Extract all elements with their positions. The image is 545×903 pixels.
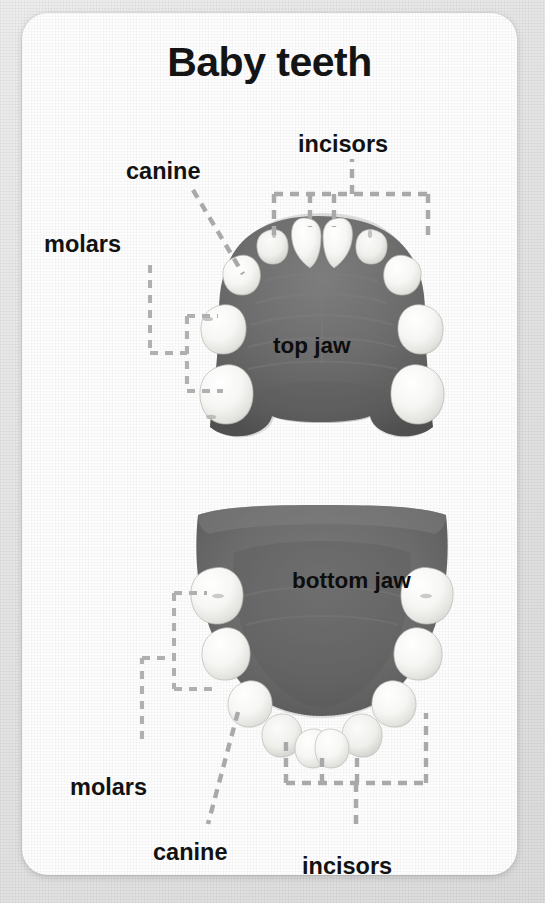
- leader-molars-top: [150, 265, 223, 391]
- label-molars-top: molars: [44, 231, 121, 258]
- label-top-jaw: top jaw: [273, 333, 351, 359]
- leader-canine-top: [193, 190, 243, 274]
- leader-incisors-top: [274, 159, 428, 239]
- leader-lines: [22, 13, 517, 875]
- label-molars-bottom: molars: [70, 774, 147, 801]
- label-bottom-jaw: bottom jaw: [292, 568, 411, 594]
- label-incisors-top: incisors: [298, 131, 388, 158]
- leader-canine-bottom: [208, 712, 238, 824]
- diagram-scene: Baby teeth: [0, 0, 545, 903]
- page-title: Baby teeth: [22, 39, 517, 86]
- label-canine-top: canine: [126, 158, 200, 185]
- label-incisors-bottom: incisors: [302, 853, 392, 875]
- illustration-card: Baby teeth: [22, 13, 517, 875]
- leader-molars-bottom: [142, 593, 212, 739]
- label-canine-bottom: canine: [153, 839, 227, 866]
- leader-incisors-bottom: [286, 713, 426, 825]
